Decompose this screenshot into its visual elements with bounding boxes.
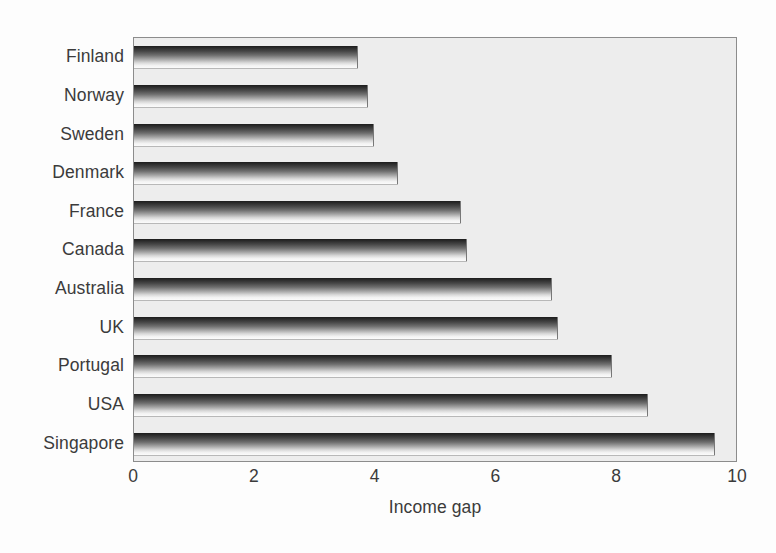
x-axis-title: Income gap bbox=[133, 497, 737, 518]
x-tick-0: 0 bbox=[128, 466, 138, 487]
category-label-canada: Canada bbox=[0, 238, 124, 260]
bar-norway bbox=[134, 85, 368, 107]
category-label-usa: USA bbox=[0, 393, 124, 415]
bar-chart: FinlandNorwaySwedenDenmarkFranceCanadaAu… bbox=[0, 0, 776, 553]
bar-finland bbox=[134, 46, 358, 68]
category-label-france: France bbox=[0, 200, 124, 222]
x-tick-4: 4 bbox=[370, 466, 380, 487]
category-label-uk: UK bbox=[0, 316, 124, 338]
x-tick-8: 8 bbox=[611, 466, 621, 487]
bar-singapore bbox=[134, 433, 715, 455]
category-label-australia: Australia bbox=[0, 277, 124, 299]
bar-uk bbox=[134, 317, 558, 339]
bar-portugal bbox=[134, 355, 612, 377]
category-label-denmark: Denmark bbox=[0, 161, 124, 183]
x-axis-tick-labels: 0246810 bbox=[133, 466, 737, 492]
x-tick-2: 2 bbox=[249, 466, 259, 487]
x-tick-6: 6 bbox=[491, 466, 501, 487]
bar-usa bbox=[134, 394, 648, 416]
bar-australia bbox=[134, 278, 552, 300]
bar-sweden bbox=[134, 124, 374, 146]
category-label-singapore: Singapore bbox=[0, 432, 124, 454]
bar-canada bbox=[134, 239, 467, 261]
plot-area bbox=[133, 37, 737, 462]
category-label-norway: Norway bbox=[0, 84, 124, 106]
x-tick-10: 10 bbox=[727, 466, 746, 487]
category-label-finland: Finland bbox=[0, 45, 124, 67]
category-label-portugal: Portugal bbox=[0, 354, 124, 376]
category-label-sweden: Sweden bbox=[0, 123, 124, 145]
category-axis-labels: FinlandNorwaySwedenDenmarkFranceCanadaAu… bbox=[0, 37, 124, 462]
bar-denmark bbox=[134, 162, 398, 184]
bar-france bbox=[134, 201, 461, 223]
